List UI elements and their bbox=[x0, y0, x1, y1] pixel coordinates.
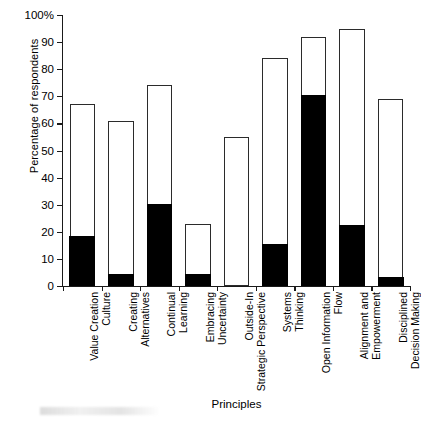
x-axis-label-5: Outside-InStrategic Perspective bbox=[244, 292, 267, 402]
x-axis-label-4: EmbracingUncertainty bbox=[205, 292, 228, 402]
bar-fill-8 bbox=[339, 225, 365, 286]
y-tick-mark bbox=[57, 15, 62, 16]
y-tick-mark bbox=[57, 286, 62, 287]
x-tick-mark bbox=[371, 286, 372, 291]
x-axis-label-9: DisciplinedDecision Making bbox=[398, 292, 421, 402]
x-axis-label-line: Open Information bbox=[321, 292, 333, 402]
x-axis-label-line: Creating bbox=[128, 292, 140, 402]
y-tick-mark bbox=[57, 232, 62, 233]
bar-7 bbox=[301, 37, 327, 286]
y-tick-mark bbox=[57, 205, 62, 206]
x-tick-mark bbox=[410, 286, 411, 291]
y-tick-mark bbox=[57, 178, 62, 179]
x-axis-label-line: Culture bbox=[101, 292, 113, 402]
bar-fill-6 bbox=[262, 244, 288, 286]
x-axis-label-line: Uncertainty bbox=[217, 292, 229, 402]
x-axis-label-line: Alignment and bbox=[359, 292, 371, 402]
x-axis-label-7: Open InformationFlow bbox=[321, 292, 344, 402]
x-axis-label-line: Alternatives bbox=[139, 292, 151, 402]
y-tick-label: 20 bbox=[41, 226, 54, 238]
y-tick-mark bbox=[57, 69, 62, 70]
x-axis-label-line: Strategic Perspective bbox=[255, 292, 267, 402]
y-tick-label: 10 bbox=[41, 253, 54, 265]
bar-fill-4 bbox=[185, 274, 211, 286]
x-tick-mark bbox=[294, 286, 295, 291]
y-tick-mark bbox=[57, 42, 62, 43]
bar-fill-9 bbox=[378, 277, 404, 286]
y-axis-line bbox=[62, 15, 63, 287]
bar-4 bbox=[185, 224, 211, 286]
x-tick-mark bbox=[63, 286, 64, 291]
y-tick-label: 50 bbox=[41, 145, 54, 157]
bar-6 bbox=[262, 58, 288, 286]
x-tick-mark bbox=[256, 286, 257, 291]
x-tick-mark bbox=[333, 286, 334, 291]
y-tick-label: 90 bbox=[41, 36, 54, 48]
y-tick-label: 60 bbox=[41, 117, 54, 129]
x-axis-label-1: Value CreationCulture bbox=[89, 292, 112, 402]
x-axis-line bbox=[62, 286, 410, 287]
bar-2 bbox=[108, 121, 134, 286]
x-axis-label-line: Decision Making bbox=[409, 292, 421, 402]
bar-5 bbox=[224, 137, 250, 286]
x-tick-mark bbox=[179, 286, 180, 291]
x-axis-label-8: Alignment andEmpowerment bbox=[359, 292, 382, 402]
bar-1 bbox=[70, 104, 96, 286]
y-tick-label: 70 bbox=[41, 90, 54, 102]
bar-fill-7 bbox=[301, 95, 327, 286]
x-axis-label-3: ContinualLearning bbox=[166, 292, 189, 402]
x-axis-label-line: Outside-In bbox=[244, 292, 256, 402]
x-tick-mark bbox=[217, 286, 218, 291]
y-tick-label: 80 bbox=[41, 63, 54, 75]
y-tick-label: 0 bbox=[48, 280, 54, 292]
bar-fill-3 bbox=[147, 204, 173, 286]
x-axis-label-2: CreatingAlternatives bbox=[128, 292, 151, 402]
bar-fill-1 bbox=[69, 236, 95, 286]
x-axis-label-line: Empowerment bbox=[371, 292, 383, 402]
y-tick-mark bbox=[57, 96, 62, 97]
x-axis-label-line: Embracing bbox=[205, 292, 217, 402]
y-axis-title: Percentage of respondents bbox=[28, 6, 40, 206]
y-tick-label: 30 bbox=[41, 199, 54, 211]
x-axis-title: Principles bbox=[63, 398, 410, 410]
x-axis-labels: Value CreationCultureCreatingAlternative… bbox=[63, 292, 410, 392]
x-axis-label-line: Disciplined bbox=[398, 292, 410, 402]
x-tick-mark bbox=[102, 286, 103, 291]
y-tick-label: 40 bbox=[41, 172, 54, 184]
x-axis-label-line: Learning bbox=[178, 292, 190, 402]
bar-fill-2 bbox=[108, 274, 134, 286]
x-axis-label-line: Systems bbox=[282, 292, 294, 402]
plot-area: 0102030405060708090100% bbox=[63, 15, 410, 286]
bar-3 bbox=[147, 85, 173, 286]
y-tick-mark bbox=[57, 151, 62, 152]
bar-9 bbox=[378, 99, 404, 286]
x-axis-label-line: Thinking bbox=[294, 292, 306, 402]
y-tick-mark bbox=[57, 123, 62, 124]
x-axis-label-line: Flow bbox=[332, 292, 344, 402]
bar-8 bbox=[339, 29, 365, 286]
x-tick-mark bbox=[140, 286, 141, 291]
y-tick-label: 100% bbox=[25, 9, 54, 21]
y-tick-mark bbox=[57, 259, 62, 260]
x-axis-label-6: SystemsThinking bbox=[282, 292, 305, 402]
